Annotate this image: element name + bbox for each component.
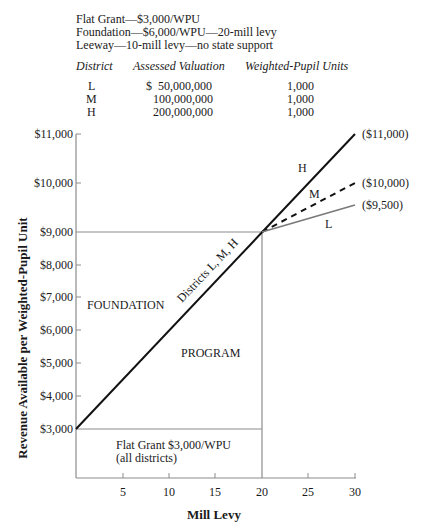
x-tick-5: 5 <box>120 485 126 499</box>
label-flat-grant: Flat Grant $3,000/WPU <box>116 438 231 452</box>
label-districts-lmh: Districts L, M, H <box>174 235 241 305</box>
end-label-h: ($11,000) <box>362 127 409 141</box>
y-tick-6000: $6,000 <box>40 323 73 337</box>
y-tick-11000: $11,000 <box>34 127 73 141</box>
x-tick-15: 15 <box>209 485 221 499</box>
x-tick-20: 20 <box>256 485 268 499</box>
y-tick-10000: $10,000 <box>34 176 73 190</box>
label-m: M <box>309 187 320 201</box>
label-h: H <box>298 161 307 175</box>
end-labels: ($11,000) ($10,000) ($9,500) <box>362 127 409 212</box>
end-label-l: ($9,500) <box>362 198 403 212</box>
label-program: PROGRAM <box>181 346 241 360</box>
x-tick-10: 10 <box>163 485 175 499</box>
y-tick-8000: $8,000 <box>40 258 73 272</box>
y-ticks <box>76 134 81 396</box>
y-tick-4000: $4,000 <box>40 389 73 403</box>
y-tick-labels: $11,000 $10,000 $9,000 $8,000 $7,000 $6,… <box>34 127 73 436</box>
x-tick-30: 30 <box>349 485 361 499</box>
x-tick-labels: 5 10 15 20 25 30 <box>120 485 361 499</box>
label-all-districts: (all districts) <box>116 451 177 465</box>
series-line-h <box>76 134 355 429</box>
y-tick-3000: $3,000 <box>40 422 73 436</box>
y-tick-7000: $7,000 <box>40 290 73 304</box>
x-ticks <box>123 473 355 478</box>
y-tick-9000: $9,000 <box>40 225 73 239</box>
x-tick-25: 25 <box>302 485 314 499</box>
label-l: L <box>325 217 332 231</box>
mill-levy-chart: $11,000 $10,000 $9,000 $8,000 $7,000 $6,… <box>0 0 426 532</box>
x-axis-title: Mill Levy <box>187 507 241 522</box>
label-foundation: FOUNDATION <box>87 298 165 312</box>
y-tick-5000: $5,000 <box>40 356 73 370</box>
end-label-m: ($10,000) <box>362 176 409 190</box>
y-axis-title: Revenue Available per Weighted-Pupil Uni… <box>15 217 30 459</box>
